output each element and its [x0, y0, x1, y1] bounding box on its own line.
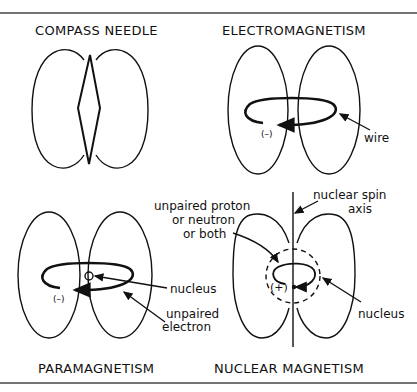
nucleon-label-1: unpaired proton	[154, 199, 250, 213]
field-line-right	[297, 214, 355, 338]
spin-axis-pointer	[295, 201, 318, 213]
compass-title: COMPASS NEEDLE	[35, 23, 158, 38]
nuclear-title: NUCLEAR MAGNETISM	[214, 361, 364, 376]
nucleon-label-2: or neutron	[172, 213, 235, 227]
compass-needle-icon	[78, 55, 100, 164]
field-line-left	[18, 212, 80, 338]
wire-pointer	[340, 114, 370, 130]
electro-charge: (–)	[261, 129, 273, 139]
field-line-left	[233, 214, 289, 338]
wire-loop	[245, 98, 335, 125]
field-line-right	[96, 50, 148, 168]
nucleus-icon	[85, 272, 93, 280]
para-electron-label-2: electron	[162, 320, 211, 334]
para-charge: (–)	[53, 294, 65, 304]
nucleon-dot-icon	[292, 285, 296, 289]
compass-needle-panel: COMPASS NEEDLE	[32, 23, 158, 168]
magnetism-diagram: COMPASS NEEDLE ELECTROMAGNETISM (–) wire…	[0, 0, 417, 392]
spin-label-1: nuclear spin	[313, 188, 386, 202]
nuclear-nucleus-label: nucleus	[358, 307, 404, 321]
spin-label-2: axis	[348, 202, 372, 216]
nucleon-pointer	[233, 233, 278, 262]
para-nucleus-label: nucleus	[170, 282, 216, 296]
electromagnetism-panel: ELECTROMAGNETISM (–) wire	[222, 23, 389, 174]
wire-label: wire	[364, 131, 389, 145]
electron-pointer	[124, 292, 165, 322]
para-title: PARAMAGNETISM	[38, 361, 154, 376]
para-electron-label-1: unpaired	[166, 307, 219, 321]
field-line-left	[32, 50, 84, 168]
nucleon-label-3: or both	[183, 227, 226, 241]
field-line-right	[88, 212, 152, 338]
field-line-right	[298, 46, 360, 174]
field-line-left	[228, 46, 288, 174]
nuclear-charge: (+)	[270, 281, 288, 294]
electro-title: ELECTROMAGNETISM	[222, 23, 366, 38]
